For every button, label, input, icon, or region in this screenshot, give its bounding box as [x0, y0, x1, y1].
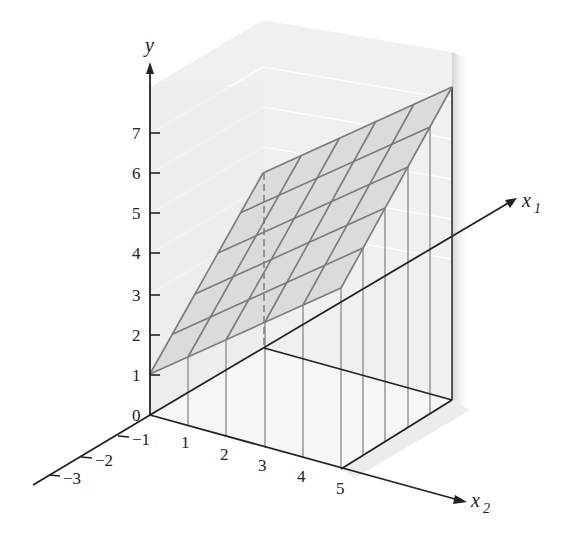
svg-text:5: 5	[132, 204, 141, 223]
y-tick-labels: 0 1 2 3 4 5 6 7	[132, 124, 141, 425]
plane-diagram: 0 1 2 3 4 5 6 7 −1 −2 −3 1 2 3 4 5 y x 1…	[0, 0, 575, 543]
svg-text:5: 5	[336, 479, 345, 498]
svg-text:6: 6	[132, 164, 141, 183]
svg-text:2: 2	[220, 445, 229, 464]
svg-text:2: 2	[132, 326, 141, 345]
svg-text:3: 3	[132, 286, 141, 305]
svg-text:−3: −3	[63, 469, 81, 488]
svg-text:0: 0	[132, 406, 141, 425]
svg-text:1: 1	[534, 201, 541, 216]
svg-text:x: x	[521, 189, 531, 211]
x2-axis-label: x 2	[470, 489, 490, 516]
svg-text:2: 2	[483, 501, 490, 516]
svg-text:x: x	[470, 489, 480, 511]
svg-text:4: 4	[297, 467, 306, 486]
svg-text:3: 3	[258, 456, 267, 475]
x2-axis-arrow	[453, 495, 467, 504]
svg-text:7: 7	[132, 124, 141, 143]
svg-text:−2: −2	[95, 451, 113, 470]
svg-text:−1: −1	[132, 430, 150, 449]
svg-text:1: 1	[181, 433, 190, 452]
svg-text:4: 4	[132, 244, 141, 263]
y-axis-label: y	[143, 34, 154, 57]
y-axis-arrow	[146, 62, 154, 74]
svg-text:1: 1	[132, 366, 141, 385]
x1-axis-label: x 1	[521, 189, 541, 216]
